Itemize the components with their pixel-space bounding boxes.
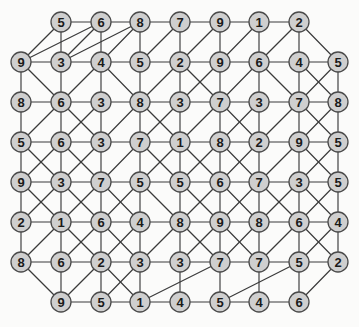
graph-node[interactable]: 5 (328, 132, 348, 152)
graph-node[interactable]: 9 (210, 12, 230, 32)
node-label: 9 (17, 55, 24, 70)
node-label: 9 (57, 295, 64, 310)
graph-node[interactable]: 4 (249, 292, 269, 312)
graph-node[interactable]: 2 (170, 52, 190, 72)
graph-node[interactable]: 7 (170, 12, 190, 32)
graph-node[interactable]: 7 (289, 92, 309, 112)
graph-node[interactable]: 4 (289, 52, 309, 72)
graph-node[interactable]: 6 (91, 12, 111, 32)
graph-node[interactable]: 5 (51, 12, 71, 32)
node-label: 6 (295, 295, 302, 310)
graph-node[interactable]: 9 (51, 292, 71, 312)
graph-node[interactable]: 1 (170, 132, 190, 152)
graph-node[interactable]: 9 (11, 52, 31, 72)
graph-node[interactable]: 4 (91, 52, 111, 72)
graph-node[interactable]: 3 (170, 92, 190, 112)
node-label: 3 (176, 255, 183, 270)
graph-node[interactable]: 3 (51, 52, 71, 72)
graph-node[interactable]: 1 (130, 292, 150, 312)
node-label: 5 (334, 135, 341, 150)
graph-node[interactable]: 1 (249, 12, 269, 32)
node-label: 8 (136, 15, 143, 30)
node-label: 7 (255, 255, 262, 270)
node-label: 4 (136, 215, 144, 230)
node-label: 3 (57, 55, 64, 70)
graph-node[interactable]: 5 (130, 172, 150, 192)
graph-node[interactable]: 2 (11, 212, 31, 232)
graph-node[interactable]: 2 (328, 252, 348, 272)
graph-node[interactable]: 9 (210, 212, 230, 232)
node-label: 2 (334, 255, 341, 270)
graph-node[interactable]: 6 (51, 92, 71, 112)
node-label: 6 (97, 215, 104, 230)
node-label: 6 (57, 255, 64, 270)
graph-node[interactable]: 6 (289, 212, 309, 232)
graph-node[interactable]: 5 (170, 172, 190, 192)
graph-node[interactable]: 8 (130, 92, 150, 112)
node-label: 1 (176, 135, 183, 150)
graph-canvas: 5687912934529645863837378563718295937556… (0, 0, 359, 327)
graph-node[interactable]: 3 (249, 92, 269, 112)
graph-node[interactable]: 7 (249, 172, 269, 192)
graph-node[interactable]: 5 (328, 172, 348, 192)
graph-node[interactable]: 8 (328, 92, 348, 112)
graph-node[interactable]: 8 (249, 212, 269, 232)
graph-node[interactable]: 7 (210, 92, 230, 112)
graph-node[interactable]: 2 (91, 252, 111, 272)
graph-node[interactable]: 6 (91, 212, 111, 232)
node-label: 5 (334, 175, 341, 190)
graph-node[interactable]: 7 (249, 252, 269, 272)
graph-node[interactable]: 5 (91, 292, 111, 312)
graph-node[interactable]: 8 (130, 12, 150, 32)
node-label: 4 (255, 295, 263, 310)
graph-node[interactable]: 8 (210, 132, 230, 152)
graph-node[interactable]: 5 (328, 52, 348, 72)
node-label: 9 (295, 135, 302, 150)
graph-node[interactable]: 9 (11, 172, 31, 192)
graph-node[interactable]: 9 (210, 52, 230, 72)
graph-node[interactable]: 8 (11, 252, 31, 272)
node-label: 7 (176, 15, 183, 30)
graph-node[interactable]: 5 (210, 292, 230, 312)
node-label: 6 (57, 95, 64, 110)
node-label: 6 (57, 135, 64, 150)
graph-node[interactable]: 9 (289, 132, 309, 152)
node-label: 7 (136, 135, 143, 150)
node-label: 5 (136, 55, 143, 70)
graph-node[interactable]: 3 (91, 132, 111, 152)
graph-node[interactable]: 6 (289, 292, 309, 312)
graph-node[interactable]: 3 (170, 252, 190, 272)
node-label: 2 (17, 215, 24, 230)
graph-node[interactable]: 3 (91, 92, 111, 112)
graph-node[interactable]: 6 (51, 132, 71, 152)
graph-node[interactable]: 4 (130, 212, 150, 232)
graph-node[interactable]: 4 (170, 292, 190, 312)
node-label: 7 (216, 255, 223, 270)
graph-node[interactable]: 3 (51, 172, 71, 192)
node-label: 5 (216, 295, 223, 310)
graph-node[interactable]: 7 (210, 252, 230, 272)
graph-node[interactable]: 8 (11, 92, 31, 112)
node-label: 9 (216, 55, 223, 70)
graph-node[interactable]: 8 (170, 212, 190, 232)
graph-node[interactable]: 2 (249, 132, 269, 152)
graph-node[interactable]: 5 (11, 132, 31, 152)
node-label: 5 (295, 255, 302, 270)
graph-node[interactable]: 4 (328, 212, 348, 232)
node-label: 5 (136, 175, 143, 190)
graph-node[interactable]: 3 (130, 252, 150, 272)
node-label: 1 (57, 215, 64, 230)
graph-node[interactable]: 6 (210, 172, 230, 192)
node-label: 5 (97, 295, 104, 310)
graph-node[interactable]: 6 (249, 52, 269, 72)
node-label: 2 (295, 15, 302, 30)
graph-node[interactable]: 7 (91, 172, 111, 192)
graph-node[interactable]: 3 (289, 172, 309, 192)
graph-node[interactable]: 6 (51, 252, 71, 272)
graph-node[interactable]: 7 (130, 132, 150, 152)
graph-node[interactable]: 2 (289, 12, 309, 32)
graph-node[interactable]: 5 (130, 52, 150, 72)
node-label: 7 (97, 175, 104, 190)
graph-node[interactable]: 1 (51, 212, 71, 232)
graph-node[interactable]: 5 (289, 252, 309, 272)
